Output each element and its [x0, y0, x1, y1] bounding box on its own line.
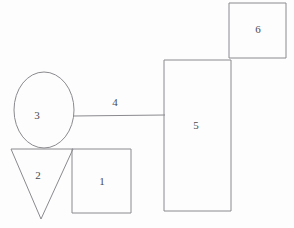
shape-4-label: 4 — [112, 97, 118, 108]
shape-2-triangle[interactable] — [11, 149, 73, 219]
shape-5-rectangle[interactable] — [164, 60, 231, 211]
shape-3-label: 3 — [34, 110, 40, 121]
shape-1-label: 1 — [99, 176, 105, 187]
shape-6-label: 6 — [255, 24, 261, 35]
diagram-svg — [0, 0, 294, 228]
shape-3-ellipse[interactable] — [14, 72, 74, 148]
shape-5-label: 5 — [193, 120, 199, 131]
diagram-canvas: 1 2 3 4 5 6 — [0, 0, 294, 228]
shape-4-connector-line[interactable] — [73, 115, 165, 116]
shape-2-label: 2 — [35, 170, 41, 181]
